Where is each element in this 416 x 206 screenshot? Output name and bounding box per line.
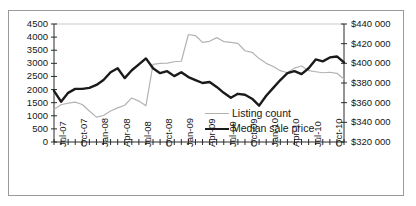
y-axis-right-label: $380 000 [351, 78, 391, 88]
x-axis-label: Jul-07 [58, 121, 68, 147]
y-axis-left-label: 1000 [9, 111, 48, 121]
y-axis-right-label: $440 000 [351, 19, 391, 29]
y-axis-left-label: 2000 [9, 85, 48, 95]
x-axis-label: Oct-10 [334, 118, 344, 147]
y-axis-right-label: $360 000 [351, 98, 391, 108]
y-axis-right-label: $420 000 [351, 39, 391, 49]
x-axis-label: Oct-08 [164, 118, 174, 147]
y-axis-left-label: 3000 [9, 58, 48, 68]
y-axis-left-label: 4000 [9, 32, 48, 42]
y-axis-left-label: 2500 [9, 71, 48, 81]
x-axis-label: Jan-08 [100, 118, 110, 147]
legend-label-listing-count: Listing count [232, 108, 291, 119]
chart-container: 050010001500200025003000350040004500$320… [8, 10, 404, 196]
x-axis-label: Oct-07 [79, 118, 89, 147]
series-line-median-sale-price [54, 56, 344, 105]
y-axis-right-label: $320 000 [351, 137, 391, 147]
x-axis-label: Jan-09 [185, 118, 195, 147]
x-axis-label: Apr-09 [207, 118, 217, 147]
y-axis-left-label: 1500 [9, 98, 48, 108]
y-axis-left-label: 3500 [9, 45, 48, 55]
series-line-listing-count [54, 34, 344, 117]
x-axis-label: Jul-08 [143, 121, 153, 147]
y-axis-left-label: 4500 [9, 19, 48, 29]
legend-label-median-sale-price: Median sale price [232, 123, 314, 134]
chart-plot-area [9, 11, 403, 195]
y-axis-left-label: 500 [9, 124, 48, 134]
y-axis-right-label: $400 000 [351, 58, 391, 68]
y-axis-left-label: 0 [9, 137, 48, 147]
y-axis-right-label: $340 000 [351, 117, 391, 127]
x-axis-label: Apr-08 [122, 118, 132, 147]
legend-swatch-median-sale-price [205, 128, 229, 130]
legend-swatch-listing-count [205, 113, 229, 114]
